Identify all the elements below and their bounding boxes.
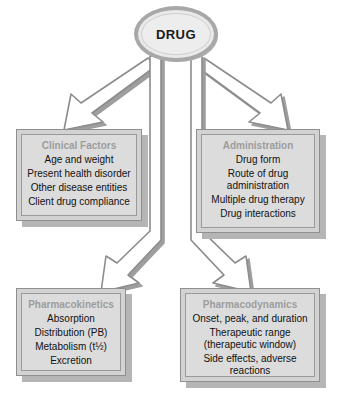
node-content: Clinical Factors Age and weight Present … <box>21 134 137 216</box>
node-list-item: Excretion <box>50 355 92 367</box>
node-list-item: Therapeutic range (therapeutic window) <box>204 327 296 351</box>
arrow-drug-to-clinical-factors <box>64 58 156 130</box>
node-pharmacokinetics[interactable]: Pharmacokinetics Absorption Distribution… <box>16 288 126 376</box>
node-list-item: Metabolism (t½) <box>35 341 107 353</box>
root-node-label: DRUG <box>156 27 196 42</box>
node-content: Pharmacokinetics Absorption Distribution… <box>21 293 121 371</box>
node-list-item: Other disease entities <box>31 182 128 194</box>
root-node-drug[interactable]: DRUG <box>134 6 218 62</box>
node-list-item: Client drug compliance <box>28 196 130 208</box>
node-list-item: Route of drug administration <box>227 168 289 192</box>
drug-concept-diagram: DRUG Clinical Factors Age and weight Pre… <box>0 0 338 404</box>
node-frame: Administration Drug form Route of drug a… <box>196 129 320 233</box>
arrow-drug-to-administration <box>196 58 288 130</box>
node-list-item: Present health disorder <box>27 168 130 180</box>
node-list-item: Multiple drug therapy <box>211 194 304 206</box>
node-pharmacodynamics[interactable]: Pharmacodynamics Onset, peak, and durati… <box>180 288 320 382</box>
node-list-item: Distribution (PB) <box>35 327 108 339</box>
node-clinical-factors[interactable]: Clinical Factors Age and weight Present … <box>16 129 142 221</box>
root-node-outer-ring: DRUG <box>134 6 218 62</box>
node-list-item: Age and weight <box>45 154 114 166</box>
node-title: Clinical Factors <box>42 140 116 151</box>
node-title: Pharmacodynamics <box>203 299 298 310</box>
node-title: Pharmacokinetics <box>28 299 114 310</box>
node-list-item: Side effects, adverse reactions <box>203 353 296 377</box>
node-administration[interactable]: Administration Drug form Route of drug a… <box>196 129 320 233</box>
node-frame: Clinical Factors Age and weight Present … <box>16 129 142 221</box>
root-node-inner: DRUG <box>141 13 211 55</box>
node-title: Administration <box>223 140 294 151</box>
node-frame: Pharmacodynamics Onset, peak, and durati… <box>180 288 320 382</box>
node-list-item: Drug form <box>236 154 280 166</box>
node-content: Pharmacodynamics Onset, peak, and durati… <box>185 293 315 377</box>
node-list-item: Absorption <box>47 313 95 325</box>
node-frame: Pharmacokinetics Absorption Distribution… <box>16 288 126 376</box>
node-list-item: Drug interactions <box>220 208 296 220</box>
node-content: Administration Drug form Route of drug a… <box>201 134 315 228</box>
node-list-item: Onset, peak, and duration <box>192 313 307 325</box>
